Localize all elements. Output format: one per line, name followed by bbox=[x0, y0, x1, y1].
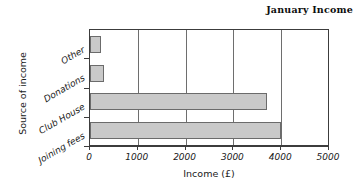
x-tick-label: 1000 bbox=[125, 152, 148, 162]
x-tick-4000 bbox=[280, 146, 281, 150]
x-tick-label: 3000 bbox=[221, 152, 244, 162]
y-tick bbox=[84, 117, 89, 118]
y-tick bbox=[84, 146, 89, 147]
x-tick-2000 bbox=[185, 146, 186, 150]
x-axis-line bbox=[89, 146, 329, 147]
bar-band bbox=[90, 30, 101, 59]
chart-title: January Income bbox=[266, 4, 353, 15]
bar-donations[interactable] bbox=[90, 65, 104, 82]
x-tick-5000 bbox=[328, 146, 329, 150]
x-tick-label: 2000 bbox=[173, 152, 196, 162]
x-tick-label: 5000 bbox=[317, 152, 340, 162]
bar-band bbox=[90, 59, 104, 88]
x-tick-label: 0 bbox=[86, 152, 92, 162]
y-axis-title: Source of income bbox=[17, 34, 28, 154]
bar-band bbox=[90, 88, 267, 117]
y-tick bbox=[84, 58, 89, 59]
y-tick bbox=[84, 88, 89, 89]
gridline-4000 bbox=[281, 30, 282, 145]
x-tick-3000 bbox=[232, 146, 233, 150]
bar-other[interactable] bbox=[90, 36, 101, 53]
bar-band bbox=[90, 116, 281, 145]
bar-joining-fees[interactable] bbox=[90, 122, 281, 139]
x-axis-title: Income (£) bbox=[89, 168, 329, 179]
x-tick-label: 4000 bbox=[269, 152, 292, 162]
plot-area bbox=[89, 29, 329, 146]
x-tick-0 bbox=[89, 146, 90, 150]
bar-club-house[interactable] bbox=[90, 93, 267, 110]
x-tick-1000 bbox=[137, 146, 138, 150]
